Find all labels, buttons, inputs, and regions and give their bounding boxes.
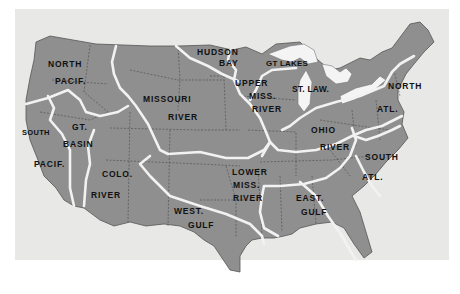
label-lower-miss-river-2: MISS. [233,180,260,190]
label-upper-miss-river-3: RIVER [252,104,282,114]
label-hudson-bay: HUDSON [197,47,239,57]
label-colo-river: COLO. [102,169,133,179]
label-upper-miss-river-2: MISS. [249,91,276,101]
label-south-pacif-2: PACIF. [34,159,65,169]
label-north-atl-2: ATL. [377,104,398,114]
label-north-atl: NORTH [388,81,422,91]
label-west-gulf: WEST. [174,206,204,216]
label-south-atl: SOUTH [365,152,399,162]
label-west-gulf-2: GULF [188,220,214,230]
label-lower-miss-river-3: RIVER [233,193,263,203]
label-east-gulf: EAST. [296,193,324,203]
label-colo-river-2: RIVER [91,190,121,200]
label-ohio-river: OHIO [311,125,336,135]
label-lower-miss-river: LOWER [232,167,268,177]
label-hudson-bay-2: BAY [219,58,239,68]
label-missouri-river: MISSOURI [143,94,191,104]
label-south-atl-2: ATL. [362,172,383,182]
label-north-pacif: NORTH [48,59,82,69]
label-south-pacif: SOUTH [22,128,50,137]
label-gt-basin: GT. [72,122,88,132]
label-gt-basin-2: BASIN [63,139,93,149]
label-east-gulf-2: GULF [301,207,327,217]
label-upper-miss-river: UPPER [235,78,268,88]
label-ohio-river-2: RIVER [320,142,350,152]
label-missouri-river-2: RIVER [168,112,198,122]
us-drainage-basin-map: NORTH PACIF. SOUTH PACIF. GT. BASIN COLO… [0,0,460,294]
label-gt-lakes: GT LAKES [266,59,309,68]
label-north-pacif-2: PACIF. [55,76,86,86]
label-st-law: ST. LAW. [292,84,329,94]
